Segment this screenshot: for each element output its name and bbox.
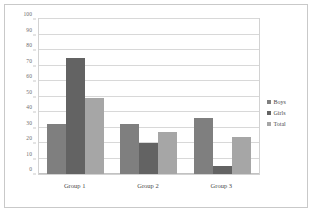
bar-girls-group-3 [213, 166, 232, 174]
legend-label: Boys [274, 99, 286, 105]
bar-total-group-2 [158, 132, 177, 174]
bar-boys-group-2 [120, 124, 139, 174]
legend-label: Girls [274, 110, 286, 116]
legend-item-boys: Boys [267, 97, 307, 107]
y-axis-tick-mark [33, 174, 36, 175]
bar-group [39, 19, 112, 174]
y-axis-tick-label: 100 [23, 11, 32, 17]
y-axis-tick-label: 80 [26, 42, 32, 48]
y-axis-tick-mark [33, 143, 36, 144]
y-axis-tick-label: 0 [29, 166, 32, 172]
x-axis-tick-label: Group 3 [211, 182, 232, 189]
y-axis-tick-label: 60 [26, 73, 32, 79]
chart-figure: 0102030405060708090100 Group 1Group 2Gro… [4, 4, 308, 208]
bar-total-group-1 [85, 98, 104, 174]
y-axis-tick-label: 20 [26, 135, 32, 141]
bar-total-group-3 [232, 137, 251, 174]
x-axis-tick-label: Group 2 [137, 182, 158, 189]
x-axis: Group 1Group 2Group 3 [38, 177, 260, 193]
y-axis-tick-label: 30 [26, 120, 32, 126]
bars-layer [39, 19, 259, 174]
y-axis-tick-mark [33, 127, 36, 128]
y-axis-tick-label: 70 [26, 58, 32, 64]
legend-label: Total [274, 121, 286, 127]
y-axis-tick-label: 50 [26, 89, 32, 95]
chart-legend: BoysGirlsTotal [267, 97, 307, 130]
y-axis: 0102030405060708090100 [5, 18, 36, 175]
y-axis-tick-mark [33, 34, 36, 35]
y-axis-tick-mark [33, 81, 36, 82]
legend-swatch-icon [267, 111, 271, 115]
x-axis-tick-label: Group 1 [64, 182, 85, 189]
y-axis-tick-label: 10 [26, 151, 32, 157]
y-axis-tick-mark [33, 158, 36, 159]
y-axis-tick-label: 40 [26, 104, 32, 110]
bar-boys-group-1 [47, 124, 66, 174]
y-axis-tick-mark [33, 112, 36, 113]
bar-boys-group-3 [194, 118, 213, 174]
bar-girls-group-1 [66, 58, 85, 174]
plot-area [38, 18, 260, 175]
legend-swatch-icon [267, 122, 271, 126]
legend-item-girls: Girls [267, 108, 307, 118]
y-axis-tick-label: 90 [26, 27, 32, 33]
bar-girls-group-2 [139, 143, 158, 174]
y-axis-tick-mark [33, 50, 36, 51]
bar-group [112, 19, 185, 174]
y-axis-tick-mark [33, 65, 36, 66]
y-axis-tick-mark [33, 19, 36, 20]
legend-item-total: Total [267, 119, 307, 129]
legend-swatch-icon [267, 100, 271, 104]
bar-group [186, 19, 259, 174]
y-axis-tick-mark [33, 96, 36, 97]
